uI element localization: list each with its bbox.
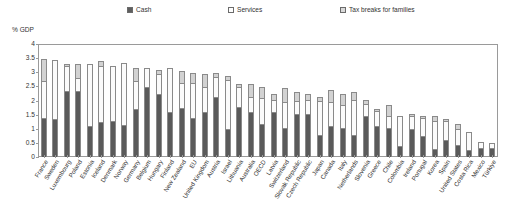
bar-segment-cash (53, 120, 57, 157)
x-axis-tick-mark (389, 155, 390, 158)
x-axis-tick-mark (182, 155, 183, 158)
stacked-bar[interactable] (363, 100, 369, 157)
bar-slot (406, 44, 418, 157)
y-axis-tick-label: 3 (31, 69, 35, 76)
x-axis-tick-mark (297, 155, 298, 158)
x-axis-tick-mark (423, 155, 424, 158)
bar-segment-cash (272, 113, 276, 157)
x-axis-tick-mark (412, 155, 413, 158)
stacked-bar[interactable] (397, 116, 403, 157)
stacked-bar[interactable] (432, 116, 438, 157)
stacked-bar[interactable] (110, 66, 116, 157)
bar-slot (61, 44, 73, 157)
bar-slot (96, 44, 108, 157)
stacked-bar[interactable] (328, 90, 334, 157)
bar-segment-cash (306, 115, 310, 157)
bar-segment-services (226, 81, 230, 130)
x-axis-tick-mark (44, 155, 45, 158)
bar-slot (280, 44, 292, 157)
stacked-bar[interactable] (41, 59, 47, 157)
stacked-bar[interactable] (386, 105, 392, 157)
bar-segment-services (329, 103, 333, 127)
x-axis-tick-mark (377, 155, 378, 158)
legend-label-tax-breaks: Tax breaks for families (349, 7, 415, 14)
legend-item-cash: Cash (127, 7, 151, 14)
stacked-bar[interactable] (179, 71, 185, 157)
bar-slot (176, 44, 188, 157)
stacked-bar[interactable] (144, 68, 150, 157)
stacked-bar[interactable] (64, 64, 70, 157)
bar-slot (418, 44, 430, 157)
stacked-bar[interactable] (259, 87, 265, 157)
filled-square-swatch-icon (127, 7, 133, 13)
x-axis-tick-mark (170, 155, 171, 158)
x-axis-tick-mark (159, 155, 160, 158)
stacked-bar[interactable] (374, 109, 380, 157)
stacked-bar[interactable] (420, 116, 426, 157)
stacked-bar[interactable] (271, 94, 277, 157)
stacked-bar[interactable] (98, 61, 104, 157)
stacked-bar[interactable] (133, 68, 139, 157)
x-axis-tick-mark (216, 155, 217, 158)
y-axis-tick-label: 2 (31, 97, 35, 104)
stacked-bar[interactable] (121, 63, 127, 157)
stacked-bar[interactable] (213, 73, 219, 157)
stacked-bar[interactable] (305, 94, 311, 157)
bar-slot (188, 44, 200, 157)
stacked-bar[interactable] (282, 88, 288, 157)
bar-segment-services (352, 101, 356, 136)
bar-slot (291, 44, 303, 157)
bar-segment-services (145, 69, 149, 87)
bar-segment-tax-breaks-for-families (249, 85, 253, 98)
stacked-bar[interactable] (190, 73, 196, 157)
bar-slot (314, 44, 326, 157)
stacked-bar[interactable] (236, 84, 242, 157)
bar-segment-cash (364, 117, 368, 157)
bar-slot (326, 44, 338, 157)
bar-segment-services (272, 101, 276, 114)
stacked-bar[interactable] (156, 70, 162, 157)
stacked-bar[interactable] (455, 124, 461, 157)
bar-segment-cash (122, 126, 126, 157)
stacked-bar[interactable] (87, 64, 93, 157)
bar-segment-services (42, 82, 46, 119)
bar-slot (429, 44, 441, 157)
stacked-bar[interactable] (317, 97, 323, 157)
stacked-bar[interactable] (75, 64, 81, 157)
stacked-bar[interactable] (443, 119, 449, 157)
stacked-bar[interactable] (167, 68, 173, 157)
bar-slot (360, 44, 372, 157)
bar-segment-services (260, 99, 264, 124)
bar-segment-services (456, 130, 460, 146)
x-axis-labels: FranceSwedenLuxembourgPolandEstoniaIcela… (38, 158, 498, 223)
hatched-square-swatch-icon (340, 7, 346, 13)
x-axis-tick-mark (366, 155, 367, 158)
stacked-bar[interactable] (248, 84, 254, 157)
stacked-bar[interactable] (52, 60, 58, 157)
stacked-bar[interactable] (409, 114, 415, 157)
bar-segment-cash (191, 119, 195, 157)
bar-segment-services (65, 67, 69, 92)
stacked-bar[interactable] (294, 92, 300, 157)
stacked-bar[interactable] (202, 74, 208, 157)
bar-segment-cash (387, 129, 391, 157)
legend-item-tax-breaks: Tax breaks for families (340, 7, 415, 14)
bar-segment-services (410, 117, 414, 130)
stacked-bar[interactable] (225, 76, 231, 158)
bar-segment-services (467, 133, 471, 151)
x-axis-tick-mark (262, 155, 263, 158)
bar-segment-services (237, 88, 241, 108)
bar-segment-services (249, 98, 253, 114)
x-axis-tick-mark (343, 155, 344, 158)
stacked-bar[interactable] (340, 94, 346, 157)
bar-segment-services (318, 102, 322, 136)
stacked-bar[interactable] (466, 132, 472, 157)
bar-slot (222, 44, 234, 157)
bar-segment-cash (203, 113, 207, 157)
x-axis-tick-mark (251, 155, 252, 158)
stacked-bar[interactable] (351, 92, 357, 157)
x-axis-tick-mark (285, 155, 286, 158)
bar-slot (84, 44, 96, 157)
bar-segment-cash (42, 119, 46, 157)
y-axis-tick-label: 1 (31, 125, 35, 132)
